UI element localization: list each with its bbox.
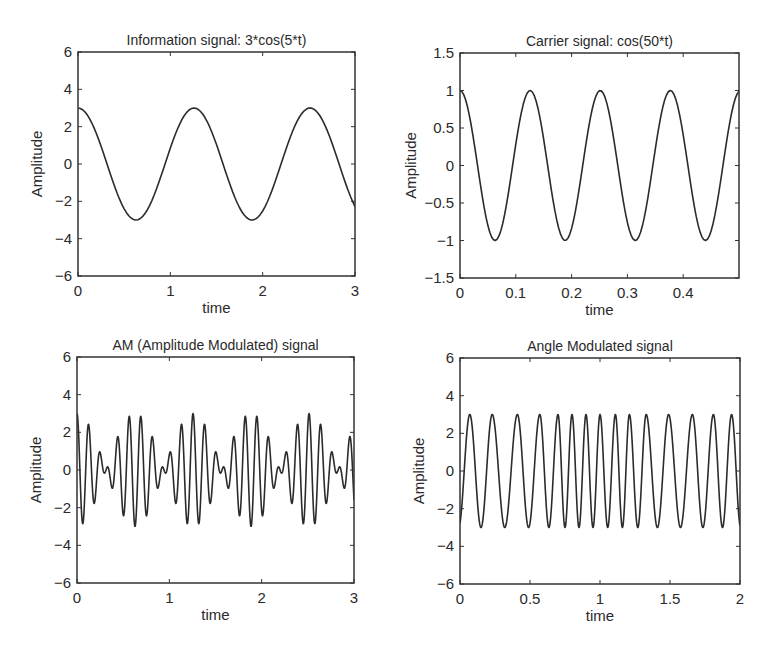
- x-axis-label: time: [202, 299, 230, 316]
- x-axis-label: time: [585, 301, 613, 318]
- y-tick-label: 0: [446, 462, 454, 479]
- x-tick-label: 0.1: [505, 284, 526, 301]
- y-tick-label: −1: [437, 232, 454, 249]
- y-tick-label: 4: [63, 386, 71, 403]
- x-tick-label: 0: [456, 284, 464, 301]
- x-tick-label: 0: [73, 589, 81, 606]
- plot-title: Angle Modulated signal: [527, 338, 673, 354]
- y-tick-label: −4: [55, 230, 72, 247]
- y-tick-label: 2: [446, 424, 454, 441]
- figure-canvas: 0123−6−4−20246Information signal: 3*cos(…: [0, 0, 766, 652]
- y-axis-label: Amplitude: [28, 131, 45, 198]
- information-signal-plot: 0123−6−4−20246Information signal: 3*cos(…: [28, 32, 359, 316]
- x-tick-label: 3: [351, 282, 359, 299]
- y-tick-label: 1: [446, 82, 454, 99]
- y-tick-label: −6: [55, 267, 72, 284]
- plot-title: AM (Amplitude Modulated) signal: [112, 337, 318, 353]
- x-tick-label: 2: [736, 590, 744, 607]
- x-tick-label: 2: [258, 282, 266, 299]
- y-tick-label: 0: [63, 461, 71, 478]
- x-tick-label: 1: [166, 282, 174, 299]
- y-tick-label: 6: [64, 43, 72, 60]
- plot-title: Information signal: 3*cos(5*t): [127, 32, 307, 48]
- x-tick-label: 0.5: [520, 590, 541, 607]
- y-tick-label: 1.5: [433, 44, 454, 61]
- signal-line: [78, 108, 355, 220]
- signal-line: [77, 414, 354, 527]
- signal-line: [460, 91, 739, 241]
- y-tick-label: 4: [64, 80, 72, 97]
- y-tick-label: 2: [64, 118, 72, 135]
- y-tick-label: −6: [437, 575, 454, 592]
- x-tick-label: 0.2: [561, 284, 582, 301]
- y-tick-label: −4: [437, 537, 454, 554]
- y-tick-label: −4: [54, 536, 71, 553]
- y-tick-label: 0: [446, 157, 454, 174]
- y-tick-label: −2: [54, 499, 71, 516]
- figure: 0123−6−4−20246Information signal: 3*cos(…: [0, 0, 766, 652]
- carrier-signal-plot: 00.10.20.30.4−1.5−1−0.500.511.5Carrier s…: [402, 33, 739, 318]
- x-axis-label: time: [201, 606, 229, 623]
- y-tick-label: 0.5: [433, 119, 454, 136]
- plot-title: Carrier signal: cos(50*t): [526, 33, 673, 49]
- axes-frame: [78, 52, 355, 276]
- x-tick-label: 2: [257, 589, 265, 606]
- axes-frame: [460, 53, 739, 278]
- y-axis-label: Amplitude: [410, 438, 427, 505]
- x-tick-label: 0: [456, 590, 464, 607]
- x-tick-label: 3: [350, 589, 358, 606]
- x-tick-label: 1.5: [660, 590, 681, 607]
- y-tick-label: 4: [446, 387, 454, 404]
- y-tick-label: −1.5: [424, 269, 454, 286]
- y-tick-label: 0: [64, 155, 72, 172]
- y-tick-label: 6: [63, 348, 71, 365]
- x-axis-label: time: [586, 607, 614, 624]
- x-tick-label: 0.4: [673, 284, 694, 301]
- y-tick-label: −2: [55, 192, 72, 209]
- y-axis-label: Amplitude: [402, 132, 419, 199]
- x-tick-label: 0: [74, 282, 82, 299]
- y-tick-label: −2: [437, 500, 454, 517]
- y-tick-label: −0.5: [424, 194, 454, 211]
- y-tick-label: 6: [446, 349, 454, 366]
- y-tick-label: −6: [54, 574, 71, 591]
- angle-modulated-signal-plot: 00.511.52−6−4−20246Angle Modulated signa…: [410, 338, 744, 624]
- x-tick-label: 1: [165, 589, 173, 606]
- signal-line: [460, 415, 740, 528]
- y-axis-label: Amplitude: [27, 437, 44, 504]
- y-tick-label: 2: [63, 423, 71, 440]
- x-tick-label: 0.3: [617, 284, 638, 301]
- x-tick-label: 1: [596, 590, 604, 607]
- am-signal-plot: 0123−6−4−20246AM (Amplitude Modulated) s…: [27, 337, 358, 623]
